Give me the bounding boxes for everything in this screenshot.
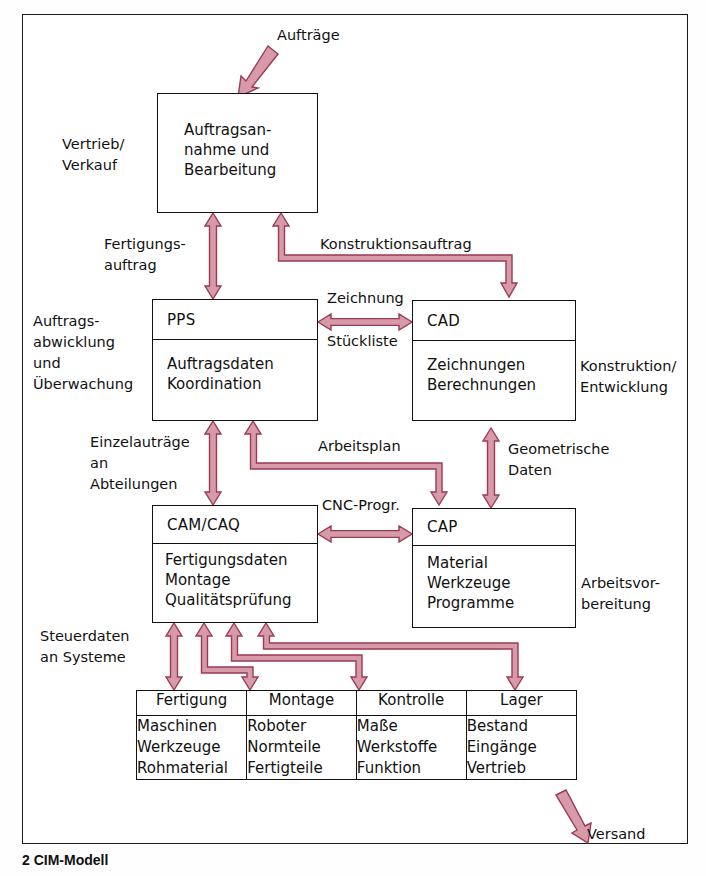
label-stueckliste: Stückliste <box>327 331 398 352</box>
box-order-entry-line-1: Auftragsan- <box>184 120 317 140</box>
arrow-arbeitsplan <box>245 421 447 505</box>
table-cell-montage-line-3: Fertigteile <box>247 758 356 779</box>
table-header-montage: Montage <box>247 691 357 716</box>
table-header-kontrolle: Kontrolle <box>356 691 466 716</box>
label-fertigungsauftrag: Fertigungs- auftrag <box>104 234 186 276</box>
box-cap-body: Material Werkzeuge Programme <box>413 546 575 613</box>
box-pps-body: Auftragsdaten Koordination <box>153 340 317 394</box>
table-cell-lager: Bestand Eingänge Vertrieb <box>466 716 576 780</box>
table-header-fertigung: Fertigung <box>137 691 247 716</box>
label-versand: Versand <box>587 824 646 845</box>
label-arbeitsvorbereitung: Arbeitsvor- bereitung <box>581 573 660 615</box>
box-pps-line-1: Auftragsdaten <box>167 354 317 374</box>
arrow-steuerdaten-fertigung <box>166 623 182 690</box>
label-konstruktion-entwicklung: Konstruktion/ Entwicklung <box>580 356 676 398</box>
box-order-entry-line-3: Bearbeitung <box>184 160 317 180</box>
table-cell-fertigung: Maschinen Werkzeuge Rohmaterial <box>137 716 247 780</box>
table-cell-lager-line-2: Eingänge <box>467 737 576 758</box>
arrow-cnc-progr <box>318 526 412 542</box>
box-cam-caq-body: Fertigungsdaten Montage Qualitätsprüfung <box>153 544 317 610</box>
label-konstruktionsauftrag: Konstruktionsauftrag <box>320 234 472 255</box>
arrow-auftraege <box>238 46 278 97</box>
box-cap-line-2: Werkzeuge <box>427 573 575 593</box>
box-cam-caq-line-3: Qualitätsprüfung <box>165 590 317 610</box>
table-cell-montage-line-1: Roboter <box>247 716 356 737</box>
label-geometrische-daten: Geometrische Daten <box>508 439 609 481</box>
arrow-einzelauftraege <box>205 421 221 505</box>
table-cell-kontrolle: Maße Werkstoffe Funktion <box>356 716 466 780</box>
box-cam-caq-title: CAM/CAQ <box>167 516 240 534</box>
label-steuerdaten-an-systeme: Steuerdaten an Systeme <box>40 626 130 668</box>
label-vertrieb-verkauf: Vertrieb/ Verkauf <box>62 134 124 176</box>
table-cell-lager-line-1: Bestand <box>467 716 576 737</box>
label-arbeitsplan: Arbeitsplan <box>318 436 401 457</box>
box-cap-line-1: Material <box>427 553 575 573</box>
label-einzelauftraege: Einzelauträge an Abteilungen <box>90 432 190 495</box>
box-cap[interactable]: CAP Material Werkzeuge Programme <box>412 508 576 628</box>
table-cell-montage: Roboter Normteile Fertigteile <box>247 716 357 780</box>
box-pps[interactable]: PPS Auftragsdaten Koordination <box>152 299 318 421</box>
label-auftraege: Aufträge <box>277 25 340 46</box>
arrow-fertigungsauftrag <box>205 213 221 299</box>
box-order-entry-body: Auftragsan- nahme und Bearbeitung <box>158 94 317 180</box>
box-cad[interactable]: CAD Zeichnungen Berechnungen <box>412 300 576 421</box>
box-cap-line-3: Programme <box>427 593 575 613</box>
box-cam-caq-header: CAM/CAQ <box>153 506 317 544</box>
arrow-versand <box>556 790 591 843</box>
table-cell-fertigung-line-3: Rohmaterial <box>137 758 246 779</box>
box-pps-title: PPS <box>167 311 196 329</box>
table-row-headers: Fertigung Montage Kontrolle Lager <box>137 691 577 716</box>
label-auftragsabwicklung: Auftrags- abwicklung und Überwachung <box>33 311 133 395</box>
label-zeichnung: Zeichnung <box>327 288 404 309</box>
box-cap-header: CAP <box>413 509 575 546</box>
box-pps-header: PPS <box>153 300 317 340</box>
box-cad-title: CAD <box>427 312 460 330</box>
shopfloor-table[interactable]: Fertigung Montage Kontrolle Lager Maschi… <box>136 690 577 780</box>
table-cell-kontrolle-line-1: Maße <box>357 716 466 737</box>
arrow-zeichnung-stueckliste <box>318 314 412 330</box>
cim-model-figure: Auftragsan- nahme und Bearbeitung PPS Au… <box>0 0 706 876</box>
table-cell-fertigung-line-2: Werkzeuge <box>137 737 246 758</box>
box-cam-caq-line-2: Montage <box>165 570 317 590</box>
table-cell-lager-line-3: Vertrieb <box>467 758 576 779</box>
box-cap-title: CAP <box>427 518 458 536</box>
box-order-entry[interactable]: Auftragsan- nahme und Bearbeitung <box>157 93 318 213</box>
box-cad-line-2: Berechnungen <box>427 375 575 395</box>
arrow-geometrische-daten <box>483 428 499 508</box>
box-cad-body: Zeichnungen Berechnungen <box>413 341 575 395</box>
box-cad-line-1: Zeichnungen <box>427 355 575 375</box>
box-cam-caq-line-1: Fertigungsdaten <box>165 550 317 570</box>
box-cad-header: CAD <box>413 301 575 341</box>
table-header-lager: Lager <box>466 691 576 716</box>
arrow-konstruktionsauftrag <box>273 213 517 297</box>
table-cell-kontrolle-line-3: Funktion <box>357 758 466 779</box>
table-cell-montage-line-2: Normteile <box>247 737 356 758</box>
label-cnc-progr: CNC-Progr. <box>322 495 400 516</box>
figure-caption: 2 CIM-Modell <box>22 852 108 868</box>
table-cell-kontrolle-line-2: Werkstoffe <box>357 737 466 758</box>
box-order-entry-line-2: nahme und <box>184 140 317 160</box>
box-cam-caq[interactable]: CAM/CAQ Fertigungsdaten Montage Qualität… <box>152 505 318 623</box>
table-cell-fertigung-line-1: Maschinen <box>137 716 246 737</box>
table-row-contents: Maschinen Werkzeuge Rohmaterial Roboter … <box>137 716 577 780</box>
box-pps-line-2: Koordination <box>167 374 317 394</box>
